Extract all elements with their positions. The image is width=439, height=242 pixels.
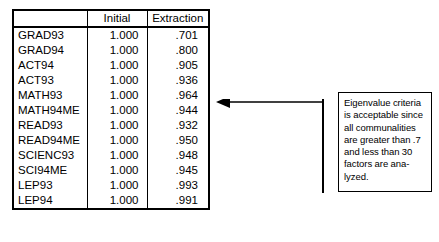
- cell-extraction: .800: [147, 43, 209, 58]
- table-row: MATH94ME 1.000 .944: [13, 103, 209, 118]
- column-header-extraction: Extraction: [147, 10, 209, 27]
- cell-extraction: .964: [147, 88, 209, 103]
- table-row: ACT94 1.000 .905: [13, 58, 209, 73]
- cell-initial: 1.000: [87, 73, 147, 88]
- cell-extraction: .932: [147, 118, 209, 133]
- cell-initial: 1.000: [87, 178, 147, 193]
- cell-extraction: .701: [147, 27, 209, 43]
- table-header-row: Initial Extraction: [13, 10, 209, 27]
- table-row: LEP94 1.000 .991: [13, 193, 209, 209]
- table-row: ACT93 1.000 .936: [13, 73, 209, 88]
- cell-extraction: .936: [147, 73, 209, 88]
- cell-initial: 1.000: [87, 58, 147, 73]
- annotation-callout-box: Eigenvalue criteria is acceptable since …: [338, 92, 432, 192]
- row-label: SCIENC93: [13, 148, 87, 163]
- table-row: SCIENC93 1.000 .948: [13, 148, 209, 163]
- cell-initial: 1.000: [87, 27, 147, 43]
- row-label: LEP94: [13, 193, 87, 209]
- arrow-left-icon: [216, 99, 324, 115]
- cell-extraction: .991: [147, 193, 209, 209]
- cell-extraction: .950: [147, 133, 209, 148]
- cell-initial: 1.000: [87, 118, 147, 133]
- annotation-callout-text: Eigenvalue criteria is acceptable since …: [344, 97, 427, 183]
- cell-initial: 1.000: [87, 43, 147, 58]
- table-row: GRAD94 1.000 .800: [13, 43, 209, 58]
- row-label: MATH93: [13, 88, 87, 103]
- row-label: MATH94ME: [13, 103, 87, 118]
- column-header-initial: Initial: [87, 10, 147, 27]
- cell-extraction: .944: [147, 103, 209, 118]
- row-label: ACT93: [13, 73, 87, 88]
- table-row: READ93 1.000 .932: [13, 118, 209, 133]
- row-label: GRAD93: [13, 27, 87, 43]
- table-row: GRAD93 1.000 .701: [13, 27, 209, 43]
- cell-initial: 1.000: [87, 133, 147, 148]
- cell-extraction: .993: [147, 178, 209, 193]
- communalities-table: Initial Extraction GRAD93 1.000 .701 GRA…: [12, 9, 210, 210]
- cell-initial: 1.000: [87, 163, 147, 178]
- cell-extraction: .905: [147, 58, 209, 73]
- table-row: READ94ME 1.000 .950: [13, 133, 209, 148]
- annotation-connector-line: [322, 99, 324, 193]
- cell-extraction: .945: [147, 163, 209, 178]
- row-label: ACT94: [13, 58, 87, 73]
- table-row: SCI94ME 1.000 .945: [13, 163, 209, 178]
- row-label: READ93: [13, 118, 87, 133]
- cell-initial: 1.000: [87, 103, 147, 118]
- row-label: SCI94ME: [13, 163, 87, 178]
- cell-initial: 1.000: [87, 148, 147, 163]
- cell-initial: 1.000: [87, 193, 147, 209]
- table-row: MATH93 1.000 .964: [13, 88, 209, 103]
- cell-initial: 1.000: [87, 88, 147, 103]
- row-label: READ94ME: [13, 133, 87, 148]
- table-row: LEP93 1.000 .993: [13, 178, 209, 193]
- row-label: LEP93: [13, 178, 87, 193]
- row-label: GRAD94: [13, 43, 87, 58]
- column-header-blank: [13, 10, 87, 27]
- cell-extraction: .948: [147, 148, 209, 163]
